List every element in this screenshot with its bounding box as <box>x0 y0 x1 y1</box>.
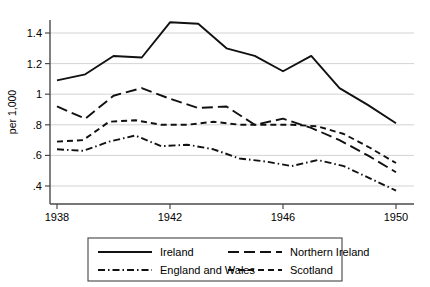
x-tick-label-3: 1950 <box>384 211 408 223</box>
y-tick-label-5: .4 <box>33 180 42 192</box>
legend-label-northern-ireland: Northern Ireland <box>290 246 370 258</box>
y-tick-label-1: 1.2 <box>27 58 42 70</box>
gridlines <box>50 33 414 186</box>
series-line-northern-ireland <box>57 88 396 172</box>
x-tick-label-2: 1946 <box>271 211 295 223</box>
x-axis: 1938 1942 1946 1950 <box>45 204 414 223</box>
y-tick-label-0: 1.4 <box>27 27 42 39</box>
legend-label-scotland: Scotland <box>290 264 333 276</box>
y-axis-title: per 1,000 <box>6 90 18 135</box>
x-tick-label-0: 1938 <box>45 211 69 223</box>
legend-label-ireland: Ireland <box>160 246 194 258</box>
series-line-scotland <box>57 120 396 163</box>
y-tick-label-3: .8 <box>33 119 42 131</box>
chart-figure: 1.4 1.2 1 .8 .6 .4 per 1,000 1938 1942 1… <box>0 0 430 287</box>
series-line-ireland <box>57 22 396 123</box>
y-tick-label-2: 1 <box>36 88 42 100</box>
chart-svg: 1.4 1.2 1 .8 .6 .4 per 1,000 1938 1942 1… <box>0 0 430 287</box>
y-tick-label-4: .6 <box>33 149 42 161</box>
chart-legend: Ireland Northern Ireland England and Wal… <box>88 238 370 281</box>
x-tick-label-1: 1942 <box>158 211 182 223</box>
y-axis: 1.4 1.2 1 .8 .6 .4 per 1,000 <box>6 20 50 204</box>
series-group <box>57 22 396 190</box>
